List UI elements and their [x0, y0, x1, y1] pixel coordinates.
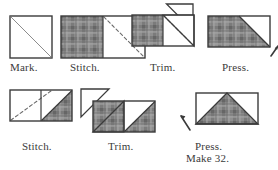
step-figure-press-2 [178, 88, 264, 140]
step-figure-press-1 [207, 15, 278, 63]
quilting-instruction-diagram: Mark. Stitch. Trim. Press. [0, 0, 278, 170]
plaid-square [132, 15, 163, 46]
step-figure-trim-2 [78, 86, 156, 138]
caption-press-1: Press. [222, 62, 249, 74]
plaid-square [61, 16, 103, 58]
step-figure-stitch-2 [9, 89, 81, 133]
caption-stitch-1: Stitch. [70, 62, 100, 74]
press-arrow-icon [271, 45, 278, 56]
caption-trim-1: Trim. [150, 62, 175, 74]
press-arrow-icon [180, 115, 190, 130]
caption-trim-2: Trim. [108, 141, 133, 153]
caption-press-2: Press. [195, 141, 222, 153]
step-figure-mark [9, 15, 53, 59]
caption-make-count: Make 32. [186, 153, 229, 165]
step-figure-trim-1 [131, 3, 207, 59]
caption-stitch-2: Stitch. [22, 141, 52, 153]
caption-mark: Mark. [10, 62, 38, 74]
